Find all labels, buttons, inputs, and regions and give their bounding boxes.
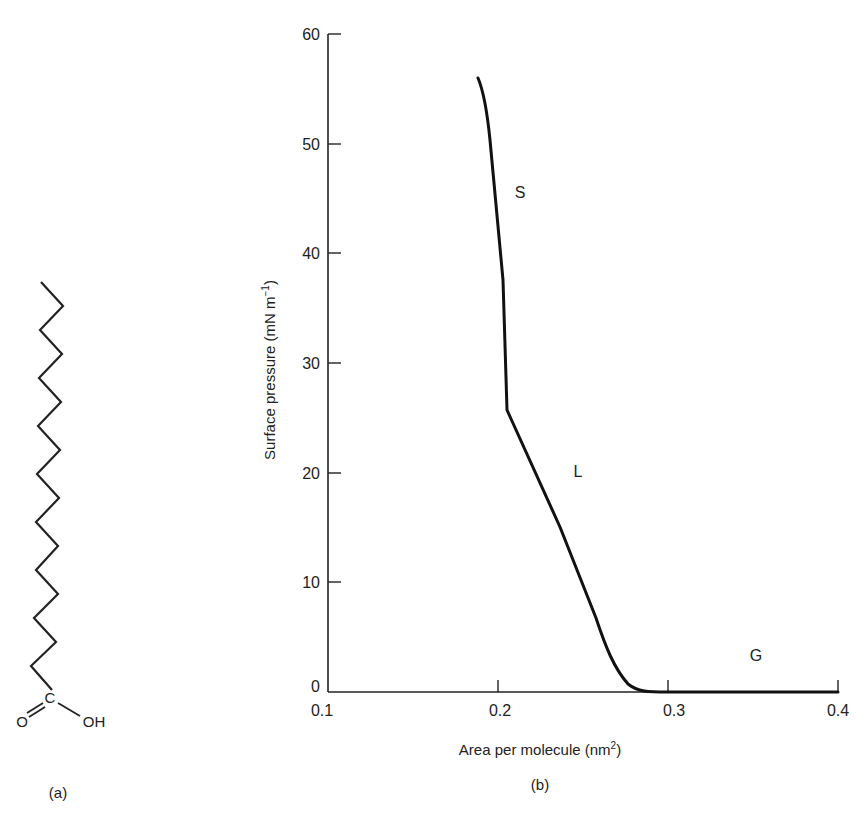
y-tick-label: 30: [302, 355, 320, 372]
hydroxyl-label: OH: [83, 713, 106, 730]
panel-a-label: (a): [49, 784, 67, 801]
y-tick-label: 20: [302, 465, 320, 482]
hydrocarbon-chain: [31, 282, 63, 690]
x-tick-label: 0.1: [311, 702, 333, 719]
carbonyl-carbon-label: C: [45, 689, 56, 706]
y-axis-label: Surface pressure (mN m−1): [260, 280, 278, 460]
y-tick-labels: 60 50 40 30 20 10 0: [302, 26, 320, 695]
y-tick-label: 50: [302, 136, 320, 153]
y-tick-label: 60: [302, 26, 320, 43]
x-tick-label: 0.4: [827, 702, 849, 719]
x-tick-label: 0.2: [489, 702, 511, 719]
region-label-solid: S: [515, 184, 526, 201]
isotherm-curve: [478, 78, 838, 692]
region-label-gas: G: [750, 647, 762, 664]
x-axis-label: Area per molecule (nm2): [459, 740, 621, 758]
y-tick-label: 40: [302, 245, 320, 262]
x-tick-label: 0.3: [663, 702, 685, 719]
y-tick-label: 0: [311, 678, 320, 695]
fatty-acid-structure: C O OH: [16, 282, 105, 730]
region-label-liquid: L: [574, 463, 583, 480]
x-tick-labels: 0.1 0.2 0.3 0.4: [311, 702, 849, 719]
y-tick-label: 10: [302, 574, 320, 591]
figure-canvas: C O OH (a) 60 50 40 30 20 10 0: [0, 0, 867, 821]
carbonyl-oxygen-label: O: [16, 713, 28, 730]
y-ticks: [328, 34, 341, 582]
double-bond-line-1: [27, 703, 43, 713]
isotherm-chart: 60 50 40 30 20 10 0 0.1 0.2 0.3 0.4 Area…: [260, 26, 849, 758]
hydroxyl-bond: [58, 703, 80, 716]
panel-b-label: (b): [531, 776, 549, 793]
x-ticks: [498, 680, 838, 692]
double-bond-line-2: [29, 707, 45, 717]
